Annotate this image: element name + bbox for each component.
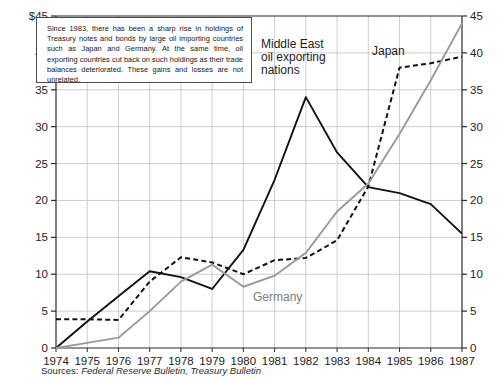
annotation-callout-box: Since 1983, there has been a sharp rise …	[36, 17, 252, 83]
x-axis-tick-label: 1983	[324, 355, 350, 367]
x-axis-tick-label: 1984	[356, 355, 382, 367]
x-axis-tick-label: 1981	[262, 355, 288, 367]
y-axis-labels-right: 051015202530354045	[470, 10, 483, 354]
chart-container: 0510152025303540$45 051015202530354045 1…	[0, 0, 498, 379]
x-axis-tick-label: 1982	[293, 355, 319, 367]
y-axis-ticks-right	[462, 16, 467, 348]
x-axis-tick-label: 1987	[449, 355, 475, 367]
y-axis-tick-label-right: 15	[470, 231, 483, 243]
y-axis-tick-label-left: 35	[35, 84, 48, 96]
y-axis-tick-label-left: 0	[42, 342, 48, 354]
source-note: Sources: Federal Reserve Bulletin, Treas…	[41, 365, 261, 376]
y-axis-tick-label-left: 10	[35, 268, 48, 280]
y-axis-tick-label-right: 35	[470, 84, 483, 96]
y-axis-tick-label-right: 5	[470, 305, 476, 317]
y-axis-tick-label-left: 30	[35, 121, 48, 133]
y-axis-tick-label-right: 40	[470, 47, 483, 59]
y-axis-tick-label-right: 20	[470, 194, 483, 206]
y-axis-tick-label-left: 25	[35, 158, 48, 170]
series-annotations: Middle Eastoil exportingnationsJapanGerm…	[253, 37, 405, 304]
y-axis-tick-label-right: 45	[470, 10, 483, 22]
x-axis-tick-label: 1986	[418, 355, 444, 367]
middle-east-label: Middle Eastoil exportingnations	[261, 37, 326, 77]
y-axis-tick-label-left: 20	[35, 194, 48, 206]
y-axis-tick-label-right: 10	[470, 268, 483, 280]
y-axis-tick-label-left: 15	[35, 231, 48, 243]
y-axis-tick-label-right: 25	[470, 158, 483, 170]
japan-label: Japan	[372, 44, 405, 58]
annotation-callout-text: Since 1983, there has been a sharp rise …	[47, 24, 243, 85]
x-axis-tick-label: 1985	[387, 355, 413, 367]
germany-label: Germany	[253, 290, 302, 304]
y-axis-tick-label-right: 30	[470, 121, 483, 133]
series-line-middle-east-oil-exporting-nations	[56, 97, 462, 348]
y-axis-tick-label-right: 0	[470, 342, 476, 354]
y-axis-tick-label-left: 5	[42, 305, 48, 317]
